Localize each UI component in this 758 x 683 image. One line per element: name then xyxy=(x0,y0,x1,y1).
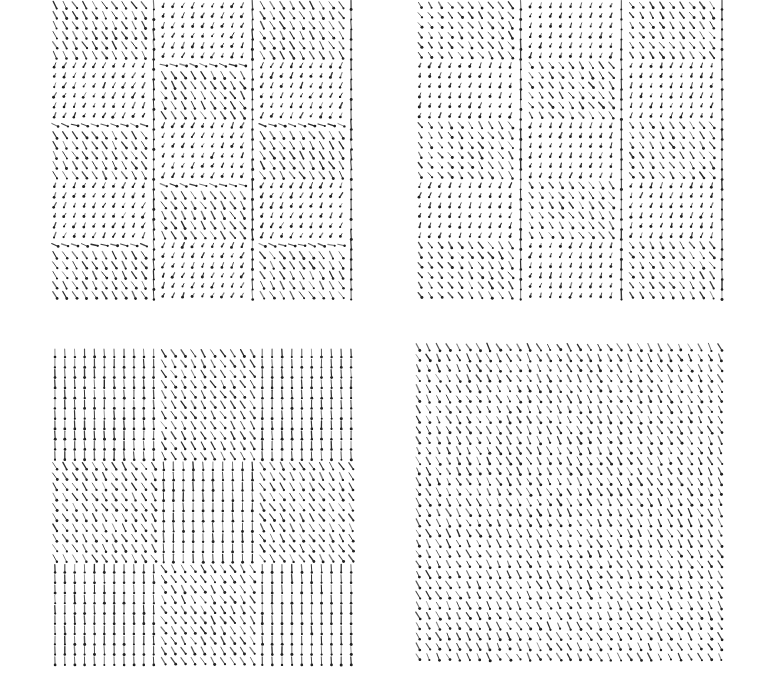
vector-field-panel-top-left xyxy=(50,0,356,300)
vector-field-panel-bottom-left xyxy=(50,348,356,666)
vector-field-plot xyxy=(415,0,727,300)
vector-field-plot xyxy=(50,348,356,666)
vector-field-plot xyxy=(50,0,356,300)
vector-field-plot xyxy=(413,342,725,662)
vector-field-panel-bottom-right xyxy=(413,342,725,662)
vector-field-panel-top-right xyxy=(415,0,727,300)
